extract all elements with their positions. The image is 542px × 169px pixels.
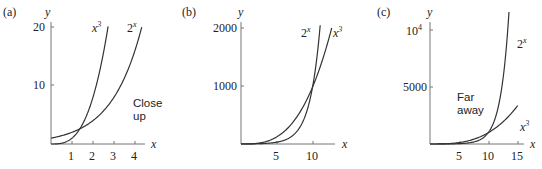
panel-c-ytick-5000: 5000 xyxy=(403,80,427,94)
panel-a-xtick-2: 2 xyxy=(89,149,95,163)
panel-c-label-2-pow-x: 2x xyxy=(517,36,527,51)
panel-c-annotation-line2: away xyxy=(457,104,484,116)
panel-a-annotation-line1: Close xyxy=(133,97,162,109)
panel-b-label-x-cubed: x3 xyxy=(332,25,342,40)
panel-a-xtick-4: 4 xyxy=(131,149,137,163)
panel-a-label-x-cubed: x3 xyxy=(91,20,101,35)
panel-b-ytick-2000: 2000 xyxy=(213,21,237,35)
panel-b-label-2-pow-x: 2x xyxy=(301,25,311,40)
panel-a: (a) y x 20 10 1 2 3 4 x3 2x Close up xyxy=(3,5,162,163)
panel-b-xlabel: x xyxy=(341,137,348,151)
panel-c-ylabel: y xyxy=(426,5,433,19)
panel-a-annotation-line2: up xyxy=(133,110,146,122)
panel-a-ylabel: y xyxy=(44,5,51,19)
panel-c-xlabel: x xyxy=(529,137,536,151)
panel-c-label: (c) xyxy=(377,5,390,19)
panel-c-ytick-10000: 104 xyxy=(406,23,422,38)
panel-c-xtick-5: 5 xyxy=(456,149,462,163)
panel-a-xtick-3: 3 xyxy=(110,149,116,163)
panel-b-xtick-5: 5 xyxy=(273,149,279,163)
panel-c-label-x-cubed: x3 xyxy=(519,119,529,134)
panel-a-xtick-1: 1 xyxy=(68,149,74,163)
figure-canvas: (a) y x 20 10 1 2 3 4 x3 2x Close up (b)… xyxy=(0,0,542,169)
panel-b-ylabel: y xyxy=(237,5,244,19)
panel-a-label: (a) xyxy=(3,5,16,19)
panel-a-ytick-10: 10 xyxy=(33,78,45,92)
panel-b-curve-2-pow-x xyxy=(241,25,320,144)
panel-c-annotation-line1: Far xyxy=(457,91,474,103)
panel-c-xtick-15: 15 xyxy=(511,149,523,163)
panel-b-xtick-10: 10 xyxy=(306,149,318,163)
panel-c-curve-2-pow-x xyxy=(430,12,509,144)
panel-c-xtick-10: 10 xyxy=(482,149,494,163)
panel-a-curve-x-cubed xyxy=(51,26,108,144)
panel-a-ytick-20: 20 xyxy=(33,20,45,34)
panel-a-xlabel: x xyxy=(150,137,157,151)
panel-b: (b) y x 2000 1000 5 10 2x x3 xyxy=(182,5,348,163)
panel-b-label: (b) xyxy=(182,5,196,19)
panel-c: (c) y x 104 5000 5 10 15 2x x3 Far away xyxy=(377,5,536,163)
panel-a-label-2-pow-x: 2x xyxy=(127,20,137,35)
panel-b-ytick-1000: 1000 xyxy=(213,79,237,93)
